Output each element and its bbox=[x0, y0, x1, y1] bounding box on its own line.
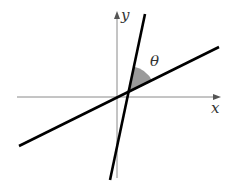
theta-label: θ bbox=[150, 52, 159, 70]
diagram-svg: y x θ bbox=[0, 0, 232, 191]
y-axis-arrow-icon bbox=[114, 11, 120, 19]
diagram-canvas: y x θ bbox=[0, 0, 232, 191]
y-axis-label: y bbox=[120, 6, 130, 24]
x-axis-label: x bbox=[211, 99, 220, 117]
